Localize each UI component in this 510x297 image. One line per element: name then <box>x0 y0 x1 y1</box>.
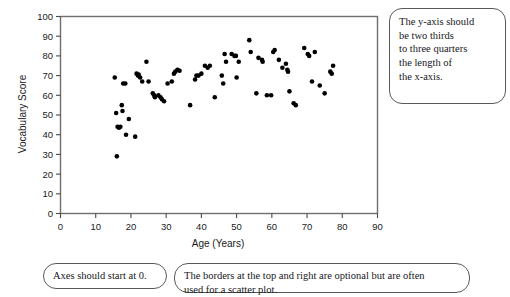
y-tick-label-90: 90 <box>42 31 53 42</box>
x-tick-label-90: 90 <box>372 221 383 232</box>
data-point <box>144 60 149 65</box>
data-point <box>287 89 292 94</box>
y-tick-label-0: 0 <box>48 208 53 219</box>
data-point <box>269 93 274 98</box>
callout-y-line-4: the length of <box>399 56 497 70</box>
x-tick-label-20: 20 <box>126 221 137 232</box>
scatter-plot-svg: 0102030405060708090 01020304050607080901… <box>0 0 400 255</box>
data-point <box>310 79 315 84</box>
x-tick-label-10: 10 <box>90 221 101 232</box>
data-point <box>199 71 204 76</box>
x-axis-tick-labels: 0102030405060708090 <box>58 221 383 232</box>
data-point <box>284 61 289 66</box>
data-point <box>220 73 225 78</box>
y-tick-label-60: 60 <box>42 90 53 101</box>
data-point <box>123 81 128 86</box>
data-point <box>236 60 241 65</box>
data-point <box>115 154 120 159</box>
callout-y-line-1: The y-axis should <box>399 15 497 29</box>
x-tick-label-30: 30 <box>161 221 172 232</box>
data-point <box>138 75 143 80</box>
data-point <box>331 63 336 68</box>
x-tick-label-80: 80 <box>337 221 348 232</box>
data-point <box>329 71 334 76</box>
data-point <box>114 111 119 116</box>
data-point <box>133 134 138 139</box>
callout-y-line-2: be two thirds <box>399 29 497 43</box>
callout-borders-line-1: The borders at the top and right are opt… <box>184 269 461 283</box>
x-tick-label-40: 40 <box>196 221 207 232</box>
data-point <box>293 103 298 108</box>
data-point <box>127 117 132 122</box>
callout-y-axis-length: The y-axis should be two thirds to three… <box>389 8 506 104</box>
data-point <box>224 60 229 65</box>
x-tick-label-0: 0 <box>58 221 63 232</box>
y-tick-label-50: 50 <box>42 109 53 120</box>
data-point <box>248 50 253 55</box>
data-point <box>118 125 123 130</box>
data-point <box>112 75 117 80</box>
data-point <box>286 69 291 74</box>
callout-origin-text: Axes should start at 0. <box>53 269 159 283</box>
data-point <box>280 65 285 70</box>
data-point <box>221 81 226 86</box>
data-point <box>124 132 129 137</box>
data-point <box>322 91 327 96</box>
data-point <box>265 93 270 98</box>
plot-border <box>61 17 378 214</box>
callout-borders-line-2: used for a scatter plot. <box>184 283 461 297</box>
y-tick-label-10: 10 <box>42 188 53 199</box>
callout-y-line-5: the x-axis. <box>399 70 497 84</box>
callout-borders-optional: The borders at the top and right are opt… <box>174 263 470 293</box>
data-point <box>146 79 151 84</box>
data-point <box>119 103 124 108</box>
data-point <box>188 103 193 108</box>
data-point <box>302 46 307 51</box>
data-point <box>313 50 318 55</box>
data-point <box>317 83 322 88</box>
scatter-points <box>112 38 335 159</box>
y-axis-tick-labels: 0102030405060708090100 <box>37 11 53 219</box>
data-point <box>170 79 175 84</box>
data-point <box>234 54 239 59</box>
x-tick-label-70: 70 <box>302 221 313 232</box>
data-point <box>254 91 259 96</box>
x-axis-title: Age (Years) <box>192 238 244 249</box>
callout-axes-start-at-zero: Axes should start at 0. <box>43 263 167 289</box>
y-tick-label-70: 70 <box>42 70 53 81</box>
data-point <box>277 58 282 63</box>
x-tick-label-60: 60 <box>267 221 278 232</box>
data-point <box>222 52 227 57</box>
chart-area: 0102030405060708090 01020304050607080901… <box>0 0 400 255</box>
data-point <box>260 60 265 65</box>
y-tick-label-20: 20 <box>42 169 53 180</box>
data-point <box>272 48 277 53</box>
data-point <box>247 38 252 43</box>
data-point <box>140 79 145 84</box>
data-point <box>208 63 213 68</box>
data-point <box>307 54 312 59</box>
data-point <box>165 81 170 86</box>
y-tick-label-40: 40 <box>42 129 53 140</box>
data-point <box>193 77 198 82</box>
data-point <box>120 109 125 114</box>
data-point <box>212 95 217 100</box>
data-point <box>162 99 167 104</box>
figure-scatter-plot-annotated: 0102030405060708090 01020304050607080901… <box>0 0 510 297</box>
callout-y-line-3: to three quarters <box>399 42 497 56</box>
data-point <box>177 68 182 73</box>
y-tick-label-80: 80 <box>42 50 53 61</box>
y-tick-label-100: 100 <box>37 11 53 22</box>
x-tick-label-50: 50 <box>231 221 242 232</box>
data-point <box>234 75 239 80</box>
y-axis-title: Vocabulary Score <box>17 74 28 153</box>
y-tick-label-30: 30 <box>42 149 53 160</box>
